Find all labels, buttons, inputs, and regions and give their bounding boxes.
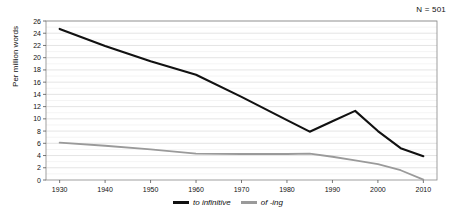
svg-text:1950: 1950 [143,186,159,193]
chart-legend: to infinitive of -ing [0,198,456,207]
svg-text:8: 8 [37,128,41,135]
svg-text:1970: 1970 [234,186,250,193]
svg-text:4: 4 [37,152,41,159]
svg-text:22: 22 [33,42,41,49]
svg-text:0: 0 [37,177,41,184]
legend-swatch-of-ing [241,201,257,204]
legend-swatch-to-infinitive [173,201,189,204]
svg-text:1990: 1990 [325,186,341,193]
svg-text:1930: 1930 [52,186,68,193]
svg-text:14: 14 [33,91,41,98]
legend-entry-of-ing: of -ing [241,198,283,207]
svg-text:20: 20 [33,54,41,61]
svg-text:1940: 1940 [97,186,113,193]
svg-text:2010: 2010 [416,186,432,193]
svg-text:10: 10 [33,115,41,122]
svg-text:1980: 1980 [279,186,295,193]
svg-text:2: 2 [37,164,41,171]
svg-text:6: 6 [37,140,41,147]
legend-label-to-infinitive: to infinitive [193,198,231,207]
svg-text:26: 26 [33,18,41,25]
legend-entry-to-infinitive: to infinitive [173,198,231,207]
line-chart-plot: 0246810121416182022242619301940195019601… [0,0,456,218]
svg-text:18: 18 [33,66,41,73]
svg-text:1960: 1960 [188,186,204,193]
svg-text:16: 16 [33,79,41,86]
legend-label-of-ing: of -ing [261,198,283,207]
svg-text:12: 12 [33,103,41,110]
svg-text:24: 24 [33,30,41,37]
chart-figure: N = 501 Per million words 02468101214161… [0,0,456,218]
svg-text:2000: 2000 [370,186,386,193]
